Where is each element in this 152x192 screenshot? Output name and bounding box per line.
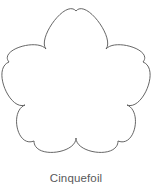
- figure-caption: Cinquefoil: [0, 171, 152, 185]
- cinquefoil-outline-path: [2, 9, 150, 153]
- shape-canvas: [0, 0, 152, 164]
- figure-panel: Cinquefoil: [0, 0, 152, 192]
- cinquefoil-shape: [0, 0, 152, 164]
